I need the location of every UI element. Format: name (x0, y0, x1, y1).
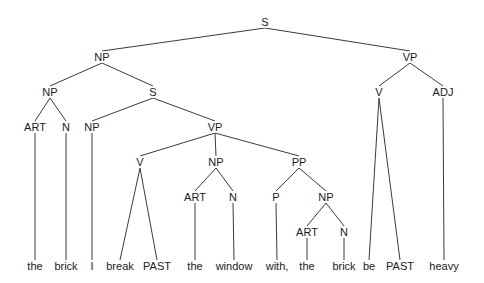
tree-edge (276, 168, 299, 191)
tree-node-label: NP (83, 122, 100, 133)
tree-edge (369, 98, 379, 260)
tree-edge (102, 63, 153, 86)
tree-edge (153, 98, 215, 121)
tree-node-label: S (260, 17, 269, 28)
tree-edge (35, 98, 50, 121)
tree-node-label: VP (207, 122, 224, 133)
tree-edge (102, 28, 265, 51)
tree-edge (92, 98, 153, 121)
tree-edge (120, 168, 140, 260)
tree-node-label: NP (41, 87, 58, 98)
tree-edge (307, 203, 326, 226)
leaf-word: window (215, 261, 254, 272)
leaf-word: brick (53, 261, 78, 272)
leaf-word: the (26, 261, 43, 272)
tree-node-label: P (271, 192, 280, 203)
tree-node-label: N (339, 227, 349, 238)
tree-node-label: ART (183, 192, 207, 203)
leaf-word: with, (265, 261, 290, 272)
tree-node-label: NP (93, 52, 110, 63)
tree-edge (379, 98, 400, 260)
tree-edge (233, 203, 234, 260)
leaf-word: the (186, 261, 203, 272)
leaf-word: break (105, 261, 135, 272)
tree-edge (140, 168, 157, 260)
leaf-word: brick (331, 261, 356, 272)
leaf-word: PAST (142, 261, 172, 272)
leaf-word: PAST (385, 261, 415, 272)
tree-edge (140, 133, 215, 156)
tree-edge (410, 63, 443, 86)
tree-node-label: V (135, 157, 144, 168)
tree-edge (50, 98, 66, 121)
tree-node-label: S (148, 87, 157, 98)
tree-edge (379, 63, 410, 86)
tree-node-label: VP (402, 52, 419, 63)
tree-node-label: ART (23, 122, 47, 133)
tree-edge (443, 98, 444, 260)
leaf-word: heavy (428, 261, 459, 272)
leaf-word: the (298, 261, 315, 272)
tree-node-label: ART (295, 227, 319, 238)
tree-node-label: V (374, 87, 383, 98)
tree-node-label: NP (317, 192, 334, 203)
tree-edge (216, 168, 233, 191)
tree-node-label: PP (291, 157, 308, 168)
tree-edge (299, 168, 326, 191)
leaf-word: I (89, 261, 94, 272)
tree-edge (195, 168, 216, 191)
tree-edges (0, 0, 484, 283)
tree-edge (50, 63, 102, 86)
tree-edge (215, 133, 216, 156)
tree-node-label: ADJ (432, 87, 455, 98)
tree-edge (276, 203, 277, 260)
leaf-word: be (362, 261, 376, 272)
tree-node-label: N (61, 122, 71, 133)
tree-node-label: NP (207, 157, 224, 168)
tree-edge (326, 203, 344, 226)
tree-edge (265, 28, 410, 51)
tree-edge (215, 133, 299, 156)
tree-node-label: N (228, 192, 238, 203)
